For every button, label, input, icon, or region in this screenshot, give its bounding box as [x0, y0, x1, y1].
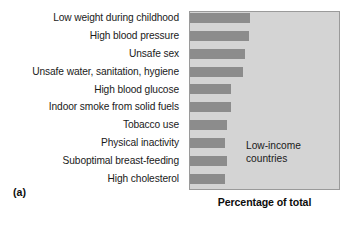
bar-4	[190, 84, 231, 94]
bar-7	[190, 138, 225, 148]
panel-caption: (a)	[13, 186, 26, 198]
category-label: Low weight during childhood	[53, 12, 179, 24]
annotation-line-1: Low-income	[246, 140, 301, 153]
category-label: Tobacco use	[123, 119, 179, 131]
bar-9	[190, 174, 225, 184]
bar-0	[190, 13, 250, 23]
category-label: Physical inactivity	[101, 137, 179, 149]
category-label-column: Low weight during childhood High blood p…	[0, 11, 183, 190]
plot-area: Low-income countries	[189, 11, 340, 190]
x-axis-title: Percentage of total	[189, 196, 340, 208]
category-label: High blood glucose	[94, 84, 179, 96]
bar-1	[190, 31, 249, 41]
bar-6	[190, 120, 227, 130]
bar-8	[190, 156, 227, 166]
category-label: Indoor smoke from solid fuels	[49, 101, 179, 113]
chart-annotation: Low-income countries	[246, 140, 301, 165]
bar-2	[190, 49, 245, 59]
category-label: Unsafe water, sanitation, hygiene	[32, 66, 179, 78]
category-label: High cholesterol	[108, 173, 179, 185]
annotation-line-2: countries	[246, 153, 301, 166]
bar-5	[190, 102, 231, 112]
category-label: High blood pressure	[90, 30, 179, 42]
bar-3	[190, 67, 243, 77]
category-label: Suboptimal breast-feeding	[63, 155, 179, 167]
bar-chart-figure: Low weight during childhood High blood p…	[0, 0, 353, 225]
category-label: Unsafe sex	[129, 48, 179, 60]
